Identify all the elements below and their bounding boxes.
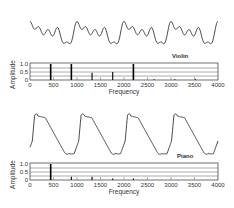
y-axis-title: Amplitude (9, 160, 17, 189)
violin-waveform (30, 21, 218, 43)
piano-spectrum: 00.51.005001000150020002500300035004000F… (9, 160, 225, 196)
x-tick-label: 1000 (70, 82, 84, 88)
violin-label: Violin (172, 53, 189, 59)
x-tick-label: 3500 (188, 82, 202, 88)
figure: Violin 00.51.005001000150020002500300035… (0, 0, 234, 208)
x-tick-label: 3500 (188, 182, 202, 188)
y-tick-label: 0.5 (20, 69, 29, 75)
y-tick-label: 1.0 (20, 161, 29, 167)
piano-waveform (30, 114, 218, 154)
y-axis-title: Amplitude (9, 60, 17, 89)
violin-spectrum: 00.51.005001000150020002500300035004000F… (9, 60, 225, 96)
x-tick-label: 2500 (141, 82, 155, 88)
x-tick-label: 1000 (70, 182, 84, 188)
x-tick-label: 4000 (211, 82, 225, 88)
x-tick-label: 0 (28, 182, 32, 188)
x-axis-title: Frequency (109, 188, 140, 196)
x-tick-label: 3000 (164, 82, 178, 88)
x-tick-label: 0 (28, 82, 32, 88)
x-axis-title: Frequency (109, 88, 140, 96)
x-tick-label: 1500 (94, 82, 108, 88)
piano-label: Piano (177, 153, 194, 159)
y-tick-label: 1.0 (20, 61, 29, 67)
x-tick-label: 500 (48, 82, 59, 88)
x-tick-label: 3000 (164, 182, 178, 188)
x-tick-label: 4000 (211, 182, 225, 188)
x-tick-label: 1500 (94, 182, 108, 188)
y-tick-label: 0.5 (20, 169, 29, 175)
x-tick-label: 500 (48, 182, 59, 188)
x-tick-label: 2500 (141, 182, 155, 188)
